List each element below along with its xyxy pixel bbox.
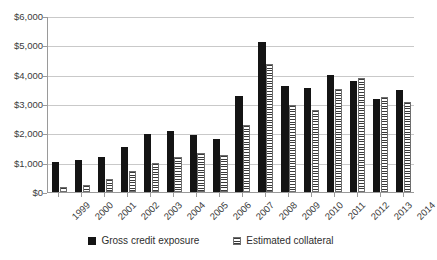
bar-estimated-collateral [289, 105, 296, 192]
bar-group [323, 17, 346, 192]
bar-gross-credit-exposure [373, 99, 380, 192]
bar-group [140, 17, 163, 192]
solid-square-icon [88, 237, 96, 245]
x-tick-label: 2009 [300, 200, 322, 222]
legend-item-label: Gross credit exposure [101, 236, 199, 246]
x-tick-label: 2010 [323, 200, 345, 222]
bar-gross-credit-exposure [327, 75, 334, 192]
bar-group [254, 17, 277, 192]
bar-group [209, 17, 232, 192]
x-tick-mark [380, 193, 381, 197]
y-tick-label: $5,000 [14, 42, 43, 52]
x-tick-mark [196, 193, 197, 197]
bar-gross-credit-exposure [167, 131, 174, 192]
bar-group [277, 17, 300, 192]
x-axis: 1999200020012002200320042005200620072008… [47, 193, 414, 233]
x-tick-mark [357, 193, 358, 197]
y-tick-label: $1,000 [14, 159, 43, 169]
x-tick-mark [58, 193, 59, 197]
x-tick-mark [311, 193, 312, 197]
x-tick-mark [150, 193, 151, 197]
bar-estimated-collateral [60, 187, 67, 192]
bar-gross-credit-exposure [190, 135, 197, 192]
x-tick-label: 1999 [71, 200, 93, 222]
bar-estimated-collateral [404, 102, 411, 192]
x-tick-label: 2008 [277, 200, 299, 222]
y-tick-label: $3,000 [14, 100, 43, 110]
bar-gross-credit-exposure [281, 86, 288, 192]
x-tick-label: 2012 [369, 200, 391, 222]
bar-group [186, 17, 209, 192]
bar-gross-credit-exposure [304, 88, 311, 192]
x-tick-label: 2001 [117, 200, 139, 222]
bar-gross-credit-exposure [213, 139, 220, 192]
legend-item[interactable]: Estimated collateral [233, 236, 333, 246]
x-tick-label: 2011 [346, 200, 367, 221]
bar-estimated-collateral [243, 125, 250, 192]
x-tick-mark [219, 193, 220, 197]
bar-estimated-collateral [335, 89, 342, 192]
bar-estimated-collateral [83, 185, 90, 192]
x-tick-mark [403, 193, 404, 197]
bar-estimated-collateral [129, 171, 136, 192]
x-tick-mark [265, 193, 266, 197]
bar-estimated-collateral [197, 153, 204, 192]
x-tick-label: 2006 [231, 200, 253, 222]
bar-gross-credit-exposure [235, 96, 242, 193]
bar-estimated-collateral [312, 110, 319, 192]
bar-gross-credit-exposure [396, 90, 403, 192]
bar-gross-credit-exposure [258, 42, 265, 192]
bar-gross-credit-exposure [121, 147, 128, 192]
x-tick-label: 2007 [254, 200, 276, 222]
y-tick-label: $6,000 [14, 12, 43, 22]
y-tick-label: $2,000 [14, 130, 43, 140]
x-tick-mark [242, 193, 243, 197]
bar-gross-credit-exposure [144, 134, 151, 192]
y-tick-label: $0 [32, 188, 43, 198]
bar-group [117, 17, 140, 192]
y-tick-label: $4,000 [14, 71, 43, 81]
bar-estimated-collateral [106, 179, 113, 192]
bar-gross-credit-exposure [75, 160, 82, 192]
striped-square-icon [233, 237, 241, 245]
x-tick-label: 2003 [162, 200, 184, 222]
bar-estimated-collateral [358, 78, 365, 192]
bar-estimated-collateral [220, 155, 227, 192]
legend-item[interactable]: Gross credit exposure [88, 236, 199, 246]
bar-group [369, 17, 392, 192]
x-tick-mark [288, 193, 289, 197]
legend-item-label: Estimated collateral [246, 236, 333, 246]
bar-group [94, 17, 117, 192]
x-tick-label: 2004 [185, 200, 207, 222]
plot-area [47, 17, 414, 193]
bar-group [392, 17, 415, 192]
x-tick-mark [334, 193, 335, 197]
bar-group [71, 17, 94, 192]
bar-gross-credit-exposure [350, 81, 357, 192]
bar-group [300, 17, 323, 192]
bar-group [346, 17, 369, 192]
x-tick-label: 2000 [94, 200, 116, 222]
x-tick-label: 2013 [392, 200, 414, 222]
bars-layer [48, 17, 414, 192]
bar-estimated-collateral [152, 163, 159, 192]
bar-estimated-collateral [266, 64, 273, 192]
bar-gross-credit-exposure [52, 162, 59, 192]
x-tick-label: 2002 [139, 200, 161, 222]
x-tick-mark [81, 193, 82, 197]
x-tick-label: 2005 [208, 200, 230, 222]
bar-gross-credit-exposure [98, 157, 105, 192]
x-tick-label: 2014 [415, 200, 437, 222]
bar-group [232, 17, 255, 192]
bar-group [163, 17, 186, 192]
x-tick-mark [127, 193, 128, 197]
x-tick-mark [173, 193, 174, 197]
x-tick-mark [104, 193, 105, 197]
y-axis: $0$1,000$2,000$3,000$4,000$5,000$6,000 [0, 0, 43, 210]
bar-group [48, 17, 71, 192]
bar-estimated-collateral [174, 157, 181, 192]
chart-legend: Gross credit exposureEstimated collatera… [0, 236, 422, 246]
bar-estimated-collateral [381, 97, 388, 192]
